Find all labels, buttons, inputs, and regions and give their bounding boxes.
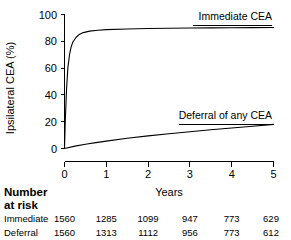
- y-axis-tick-labels: 100 80 60 40 20 0: [39, 9, 57, 155]
- risk-value-immediate-y5: 629: [263, 213, 279, 224]
- risk-value-immediate-y0: 1560: [54, 213, 75, 224]
- risk-table-heading-line2: at risk: [4, 199, 38, 211]
- risk-value-deferral-y5: 612: [263, 227, 279, 238]
- y-axis-title: Ipsilateral CEA (%): [4, 42, 16, 134]
- risk-table-row-immediate: Immediate 1560 1285 1099 947 773 629: [4, 213, 279, 224]
- x-tick-label-5: 5: [270, 168, 276, 180]
- y-tick-label-40: 40: [45, 89, 57, 101]
- risk-row-label-immediate: Immediate: [4, 213, 48, 224]
- kaplan-meier-figure: 100 80 60 40 20 0 Ipsilateral CEA (%) 0 …: [0, 0, 291, 240]
- y-axis-ticks: [61, 15, 65, 149]
- y-tick-label-20: 20: [45, 116, 57, 128]
- x-tick-label-4: 4: [229, 168, 235, 180]
- number-at-risk-table: Number at risk Immediate 1560 1285 1099 …: [4, 186, 279, 238]
- curve-immediate-cea: [65, 28, 274, 149]
- risk-value-immediate-y4: 773: [224, 213, 240, 224]
- chart-svg: 100 80 60 40 20 0 Ipsilateral CEA (%) 0 …: [0, 0, 291, 240]
- curve-label-deferral-of-any-cea: Deferral of any CEA: [179, 109, 272, 121]
- risk-table-heading-line1: Number: [4, 186, 48, 198]
- risk-value-immediate-y3: 947: [182, 213, 198, 224]
- x-tick-label-0: 0: [61, 168, 67, 180]
- x-tick-label-2: 2: [145, 168, 151, 180]
- y-tick-label-80: 80: [45, 35, 57, 47]
- risk-row-label-deferral: Deferral: [4, 227, 38, 238]
- risk-value-immediate-y1: 1285: [96, 213, 117, 224]
- curve-label-immediate-cea: Immediate CEA: [198, 10, 272, 22]
- risk-value-deferral-y2: 1112: [138, 227, 158, 238]
- risk-table-row-deferral: Deferral 1560 1313 1112 956 773 612: [4, 227, 279, 238]
- y-tick-label-100: 100: [39, 9, 57, 21]
- risk-value-immediate-y2: 1099: [138, 213, 159, 224]
- x-tick-label-3: 3: [187, 168, 193, 180]
- risk-value-deferral-y0: 1560: [54, 227, 75, 238]
- x-axis-ticks: [65, 162, 274, 167]
- x-axis-title: Years: [155, 186, 183, 198]
- curve-deferral-of-any-cea: [65, 124, 274, 148]
- risk-value-deferral-y3: 956: [182, 227, 198, 238]
- x-tick-label-1: 1: [103, 168, 109, 180]
- risk-value-deferral-y4: 773: [224, 227, 240, 238]
- y-tick-label-60: 60: [45, 62, 57, 74]
- risk-value-deferral-y1: 1313: [96, 227, 117, 238]
- y-tick-label-0: 0: [51, 143, 57, 155]
- x-axis-tick-labels: 0 1 2 3 4 5: [61, 168, 276, 180]
